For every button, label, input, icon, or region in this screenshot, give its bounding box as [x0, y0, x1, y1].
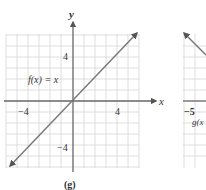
y-axis-label: y — [67, 8, 74, 20]
y-tick-4: 4 — [63, 51, 68, 62]
x-tick-4: 4 — [115, 106, 120, 117]
right-x-tick: −5 — [184, 106, 195, 117]
function-label: f(x) = x — [28, 74, 59, 86]
y-tick-neg4: −4 — [57, 142, 68, 153]
panel-label: (g) — [64, 179, 76, 190]
x-axis-label: x — [158, 95, 164, 107]
chart-canvas: y x 4 −4 −4 4 f(x) = x (g) −5 g(x — [0, 0, 206, 190]
right-function-label: g(x — [192, 117, 204, 127]
x-tick-neg4: −4 — [18, 106, 29, 117]
